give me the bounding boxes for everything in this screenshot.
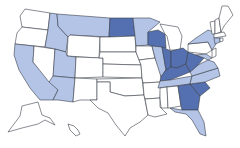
state-ks[interactable]	[103, 64, 142, 78]
state-ia[interactable]	[136, 46, 155, 60]
state-nj[interactable]	[212, 48, 216, 58]
state-sd[interactable]	[100, 36, 136, 52]
state-ms[interactable]	[160, 87, 168, 108]
state-wi[interactable]	[148, 30, 166, 48]
state-or[interactable]	[15, 27, 48, 47]
state-wy[interactable]	[67, 35, 100, 58]
state-nm[interactable]	[73, 78, 97, 102]
state-wa[interactable]	[20, 9, 50, 30]
state-fl[interactable]	[170, 108, 206, 136]
state-me[interactable]	[219, 6, 233, 32]
state-nd[interactable]	[109, 18, 135, 37]
state-ne[interactable]	[99, 52, 141, 65]
state-ar[interactable]	[143, 82, 161, 99]
state-hi[interactable]	[68, 124, 80, 136]
state-ct[interactable]	[214, 38, 220, 44]
state-mt[interactable]	[57, 14, 110, 37]
state-ak[interactable]	[8, 102, 55, 132]
state-ri[interactable]	[220, 38, 223, 42]
us-map	[0, 0, 240, 148]
state-co[interactable]	[75, 57, 103, 78]
